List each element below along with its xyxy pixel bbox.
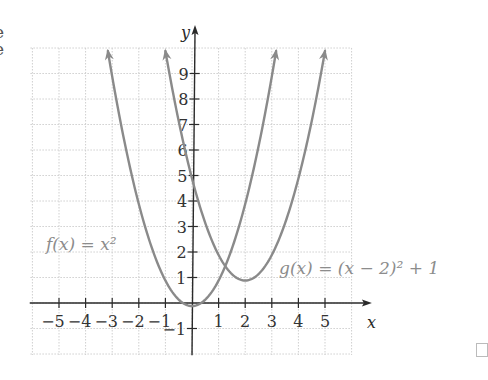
x-axis-label: x bbox=[367, 313, 376, 332]
label-f: f(x) = x² bbox=[44, 234, 117, 254]
end-of-proof-box bbox=[476, 343, 488, 357]
x-tick-label: 4 bbox=[293, 312, 303, 331]
axes: xy bbox=[30, 23, 376, 355]
x-tick-label: 5 bbox=[320, 312, 330, 331]
x-tick-label: 3 bbox=[267, 312, 277, 331]
x-tick-label: 1 bbox=[214, 312, 224, 331]
y-tick-label: 1 bbox=[176, 269, 186, 288]
x-tick-label: −4 bbox=[68, 312, 92, 331]
y-tick-label: −1 bbox=[162, 320, 186, 339]
y-tick-label: 9 bbox=[179, 65, 189, 84]
x-tick-label: −5 bbox=[41, 312, 65, 331]
cut-off-text: e bbox=[0, 41, 4, 58]
label-g: g(x) = (x − 2)² + 1 bbox=[279, 258, 439, 278]
y-tick-label: 5 bbox=[177, 167, 187, 186]
y-tick-label: 3 bbox=[177, 218, 187, 237]
x-tick-label: 2 bbox=[240, 312, 250, 331]
y-tick-label: 8 bbox=[178, 90, 188, 109]
y-tick-label: 4 bbox=[177, 192, 187, 211]
y-tick-label: 2 bbox=[176, 243, 186, 262]
y-axis-label: y bbox=[180, 23, 191, 42]
curve-labels: f(x) = x²g(x) = (x − 2)² + 1 bbox=[44, 234, 439, 278]
x-tick-label: −3 bbox=[94, 312, 118, 331]
x-tick-label: −2 bbox=[121, 312, 145, 331]
